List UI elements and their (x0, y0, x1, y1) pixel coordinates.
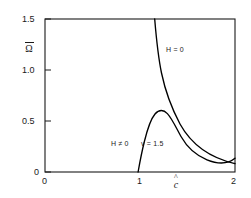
y-tick-marks (45, 19, 51, 172)
annotation-v-value: v = 1.5 (141, 140, 164, 147)
curve-h-equals-zero (155, 19, 235, 164)
x-tick-label-0: 0 (42, 177, 47, 186)
annotation-h-equals-zero: H = 0 (166, 46, 184, 53)
x-tick-label-2: 2 (231, 177, 236, 186)
y-tick-label-1p5: 1.5 (22, 15, 35, 24)
x-axis-title: ^ c (168, 176, 184, 190)
y-tick-label-0p5: 0.5 (22, 117, 35, 126)
y-axis-title: Ω (19, 42, 39, 53)
plot-frame (45, 19, 235, 172)
y-tick-label-0: 0 (34, 168, 39, 177)
chart-figure: 1.5 1.0 0.5 0 0 1 2 Ω ^ c H = 0 H ≠ 0 v … (0, 0, 251, 198)
x-tick-label-1: 1 (137, 177, 142, 186)
y-tick-label-1p0: 1.0 (22, 66, 35, 75)
annotation-h-not-equals-zero: H ≠ 0 (111, 140, 129, 147)
y-axis-title-symbol: Ω (19, 44, 39, 53)
x-axis-title-symbol: c (168, 180, 184, 190)
